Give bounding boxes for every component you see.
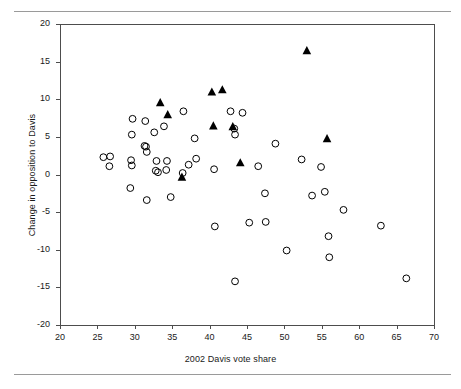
x-tick-label: 45 (234, 332, 260, 342)
data-point-circle (180, 108, 187, 115)
data-point-circle (227, 108, 234, 115)
data-point-circle (318, 164, 325, 171)
data-point-circle (298, 156, 305, 163)
data-point-triangle (303, 46, 312, 54)
data-point-circle (161, 123, 168, 130)
data-point-circle (262, 219, 269, 226)
data-point-circle (100, 154, 107, 161)
data-point-circle (142, 118, 149, 125)
data-point-circle (325, 233, 332, 240)
data-point-circle (151, 129, 158, 136)
data-point-circle (272, 140, 279, 147)
data-point-circle (239, 109, 246, 116)
data-point-circle (262, 190, 269, 197)
data-point-circle (107, 153, 114, 160)
x-tick-label: 35 (159, 332, 185, 342)
data-point-circle (403, 275, 410, 282)
data-point-circle (211, 166, 218, 173)
data-point-circle (211, 223, 218, 230)
data-point-circle (191, 135, 198, 142)
data-point-circle (155, 169, 162, 176)
data-point-triangle (209, 121, 218, 129)
y-tick-label: -20 (24, 319, 50, 329)
data-point-triangle (323, 134, 332, 142)
x-tick-label: 40 (197, 332, 223, 342)
x-axis-title: 2002 Davis vote share (0, 354, 461, 364)
data-point-circle (246, 219, 253, 226)
y-tick-label: 20 (24, 18, 50, 28)
data-point-circle (377, 222, 384, 229)
plot-area-border (61, 25, 435, 326)
scatter-plot (0, 0, 461, 389)
data-point-triangle (218, 85, 227, 93)
x-tick-label: 60 (346, 332, 372, 342)
data-point-circle (163, 167, 170, 174)
figure-container: 20151050-5-10-15-20 20253035404550556065… (0, 0, 461, 389)
x-tick-label: 55 (309, 332, 335, 342)
data-point-circle (255, 163, 262, 170)
data-point-circle (143, 197, 150, 204)
data-point-circle (106, 163, 113, 170)
data-point-circle (193, 155, 200, 162)
data-point-circle (283, 247, 290, 254)
x-tick-label: 30 (122, 332, 148, 342)
y-axis-title: Change in opposition to Davis (27, 65, 37, 285)
data-point-circle (340, 206, 347, 213)
data-point-circle (167, 194, 174, 201)
x-tick-label: 50 (271, 332, 297, 342)
plot-frame (61, 25, 435, 326)
data-point-circle (128, 131, 135, 138)
x-tick-label: 20 (47, 332, 73, 342)
data-points-layer (100, 46, 410, 285)
x-tick-label: 70 (421, 332, 447, 342)
data-point-triangle (156, 98, 165, 106)
data-point-circle (127, 185, 134, 192)
data-point-circle (326, 254, 333, 261)
data-point-circle (309, 192, 316, 199)
x-tick-label: 65 (384, 332, 410, 342)
data-point-circle (153, 158, 160, 165)
data-point-circle (321, 188, 328, 195)
data-point-triangle (208, 87, 217, 95)
data-point-circle (129, 115, 136, 122)
data-point-triangle (163, 110, 172, 118)
data-point-circle (185, 161, 192, 168)
data-point-triangle (236, 158, 245, 166)
x-tick-label: 25 (84, 332, 110, 342)
data-point-circle (232, 278, 239, 285)
data-point-circle (164, 158, 171, 165)
tick-marks (56, 25, 435, 330)
